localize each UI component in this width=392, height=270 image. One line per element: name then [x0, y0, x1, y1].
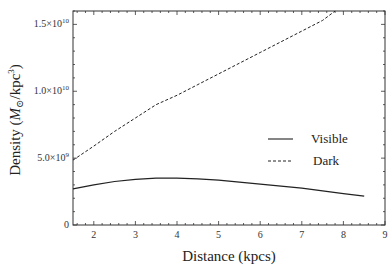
- x-tick-label: 7: [299, 229, 304, 240]
- x-tick-label: 8: [341, 229, 346, 240]
- series-dark-line: [73, 11, 335, 160]
- x-axis-label: Distance (kpcs): [182, 248, 276, 265]
- y-tick-label: 1.0×1010: [34, 84, 70, 96]
- y-tick-label: 0: [64, 219, 69, 230]
- legend-label-visible: Visible: [311, 131, 348, 146]
- x-tick-label: 4: [175, 229, 180, 240]
- density-chart: 23456789 05.0×1091.0×10101.5×1010 Visibl…: [0, 0, 392, 270]
- x-tick-label: 3: [133, 229, 138, 240]
- data-series: [73, 11, 364, 196]
- x-tick-label: 5: [216, 229, 221, 240]
- x-tick-label: 6: [258, 229, 263, 240]
- y-axis-ticks: 05.0×1091.0×10101.5×1010: [34, 11, 385, 230]
- legend-label-dark: Dark: [313, 153, 339, 168]
- y-tick-label: 5.0×109: [37, 151, 69, 163]
- y-axis-label: Density (M⊙/kpc3): [6, 64, 25, 176]
- series-visible-line: [73, 178, 364, 196]
- legend: Visible Dark: [268, 131, 348, 168]
- y-tick-label: 1.5×1010: [34, 17, 70, 29]
- x-tick-label: 9: [383, 229, 388, 240]
- x-tick-label: 2: [91, 229, 96, 240]
